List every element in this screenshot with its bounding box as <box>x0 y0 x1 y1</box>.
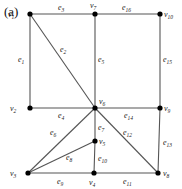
vertex-label-v5: v5 <box>99 137 106 147</box>
vertex-v3 <box>25 170 30 175</box>
edge-e10 <box>94 141 95 173</box>
edge-label-e13: e13 <box>163 138 172 148</box>
edge-label-e4: e4 <box>58 111 65 121</box>
vertex-v2 <box>27 105 32 110</box>
vertex-label-v6: v6 <box>99 97 106 107</box>
edge-label-e3: e3 <box>58 3 65 13</box>
edge-label-e10: e10 <box>98 154 107 164</box>
vertex-v4 <box>91 170 96 175</box>
edge-e8 <box>28 141 95 173</box>
edge-e13 <box>158 108 160 173</box>
edge-label-e16: e16 <box>122 3 131 13</box>
vertex-label-v7: v7 <box>90 1 97 11</box>
edge-label-e14: e14 <box>124 111 133 121</box>
vertex-label-v1: v1 <box>8 10 15 20</box>
vertex-label-v3: v3 <box>10 169 17 179</box>
edge-label-e7: e7 <box>98 123 105 133</box>
vertex-v10 <box>157 11 162 16</box>
vertex-label-v2: v2 <box>10 104 17 114</box>
vertex-v8 <box>155 170 160 175</box>
edge-label-e15: e15 <box>163 55 172 65</box>
edge-label-e2: e2 <box>60 45 67 55</box>
vertex-label-v9: v9 <box>164 104 171 114</box>
edge-label-e11: e11 <box>123 177 132 187</box>
vertices-layer: v1v7v10v2v6v9v5v3v4v8 <box>8 1 173 188</box>
edge-label-e8: e8 <box>66 153 73 163</box>
vertex-v9 <box>157 105 162 110</box>
edge-e2 <box>30 14 95 108</box>
edge-label-e5: e5 <box>98 55 105 65</box>
edge-label-e9: e9 <box>57 177 64 187</box>
vertex-v6 <box>92 105 97 110</box>
edges-layer: e1e2e3e4e5e6e7e8e9e10e11e12e13e14e15e16 <box>18 3 172 187</box>
edge-label-e12: e12 <box>123 128 132 138</box>
vertex-v5 <box>92 138 97 143</box>
vertex-v7 <box>92 11 97 16</box>
edge-label-e6: e6 <box>50 128 57 138</box>
vertex-v1 <box>27 11 32 16</box>
vertex-label-v4: v4 <box>89 178 96 188</box>
graph-diagram: e1e2e3e4e5e6e7e8e9e10e11e12e13e14e15e16 … <box>0 0 182 189</box>
vertex-label-v8: v8 <box>163 169 170 179</box>
vertex-label-v10: v10 <box>164 10 173 20</box>
edge-label-e1: e1 <box>18 55 25 65</box>
